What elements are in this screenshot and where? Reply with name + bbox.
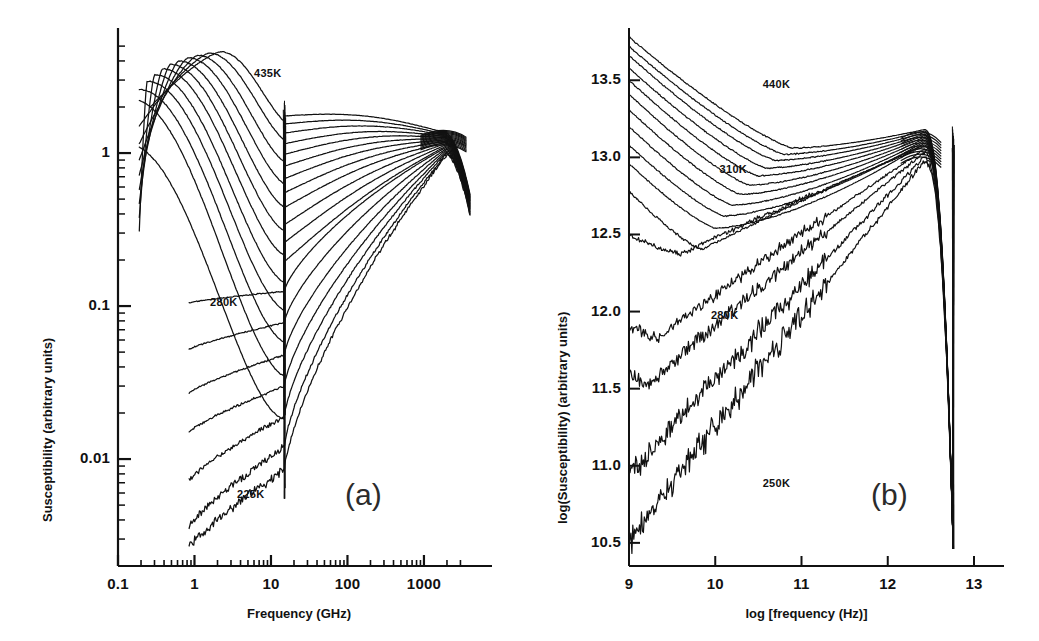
panel-a-annotation-225K: 225K	[237, 488, 265, 500]
panel-a-x-tick-label: 10	[231, 575, 311, 592]
panel-a-x-tick-label: 1000	[384, 575, 464, 592]
panel-b-x-tick-label: 9	[589, 575, 669, 592]
panel-a-y-tick-label: 0.1	[40, 296, 110, 313]
panel-a-annotation-280K: 280K	[210, 296, 238, 308]
panel-a-x-tick-label: 1	[154, 575, 234, 592]
panel-b-y-tick-label: 10.5	[555, 533, 621, 550]
panel-b-x-tick-label: 10	[675, 575, 755, 592]
panel-b-cutoff	[952, 127, 954, 550]
panel-a-x-tick-label: 100	[307, 575, 387, 592]
panel-b-y-tick-label: 12.5	[555, 224, 621, 241]
panel-a-y-tick-label: 0.01	[40, 449, 110, 466]
panel-a: Susceptibility (arbitrary units) Frequen…	[0, 0, 520, 641]
panel-b-cutoff-line	[953, 154, 954, 549]
panel-b-curve	[629, 37, 953, 536]
panel-b-annotation-250K: 250K	[763, 477, 791, 489]
panel-a-curves	[139, 52, 470, 547]
panel-b-y-tick-label: 11.0	[555, 456, 621, 473]
panel-a-curve	[189, 152, 470, 480]
panel-b: log(Susceptibility) (arbitrary units) lo…	[519, 0, 1039, 641]
panel-a-y-axis-title: Susceptibility (arbitrary units)	[40, 338, 55, 522]
panel-b-annotation-310K: 310K	[720, 163, 748, 175]
panel-a-curve	[139, 89, 470, 342]
panel-a-y-tick-label: 1	[40, 143, 110, 160]
panel-b-x-tick-label: 11	[762, 575, 842, 592]
panel-b-curves	[629, 37, 953, 553]
panel-a-curve	[189, 151, 470, 432]
panel-b-x-tick-label: 13	[934, 575, 1014, 592]
panel-a-label: (a)	[345, 478, 382, 512]
panel-a-curve	[150, 52, 470, 195]
panel-b-y-tick-label: 13.5	[555, 70, 621, 87]
panel-b-y-tick-label: 13.0	[555, 147, 621, 164]
panel-b-x-tick-label: 12	[848, 575, 928, 592]
panel-b-y-tick-label: 12.0	[555, 302, 621, 319]
panel-b-curve	[629, 47, 953, 537]
panel-b-annotation-440K: 440K	[763, 78, 791, 90]
panel-b-label: (b)	[871, 478, 908, 512]
panel-a-notch	[283, 101, 285, 499]
panel-a-curve	[139, 53, 470, 196]
panel-a-curve	[139, 75, 470, 283]
panel-a-annotation-435K: 435K	[254, 67, 282, 79]
panel-a-x-tick-label: 0.1	[78, 575, 158, 592]
panel-a-x-axis-title: Frequency (GHz)	[224, 606, 374, 621]
panel-b-y-tick-label: 11.5	[555, 379, 621, 396]
panel-a-plot	[0, 0, 520, 641]
panel-b-curve	[629, 55, 953, 536]
panel-b-annotation-280K: 280K	[711, 309, 739, 321]
figure-root: Susceptibility (arbitrary units) Frequen…	[0, 0, 1039, 641]
panel-b-x-axis-title: log [frequency (Hz)]	[722, 606, 892, 621]
panel-b-y-axis-title: log(Susceptibility) (arbitrary units)	[555, 312, 570, 524]
